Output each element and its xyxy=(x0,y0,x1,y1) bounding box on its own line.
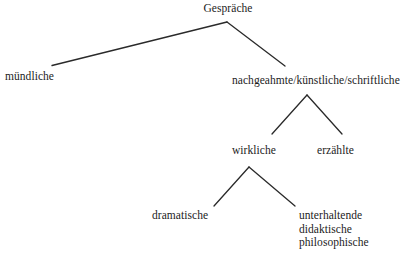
node-wirkliche: wirkliche xyxy=(232,144,276,158)
edge-root-to-written xyxy=(227,22,285,66)
node-dramatische: dramatische xyxy=(152,209,208,223)
node-didaktische: didaktische xyxy=(299,223,369,237)
edge-written-to-real xyxy=(272,95,307,134)
node-erzaehlte: erzählte xyxy=(317,144,354,158)
node-muendliche: mündliche xyxy=(5,70,54,84)
node-unterhaltende: unterhaltende xyxy=(299,209,369,223)
edge-written-to-narrated xyxy=(307,95,342,134)
edge-root-to-oral xyxy=(52,22,227,66)
edge-real-to-dramatic xyxy=(214,167,249,206)
edge-real-to-entertaining xyxy=(249,167,295,206)
tree-diagram: Gespräche mündliche nachgeahmte/künstlic… xyxy=(0,0,410,262)
node-nachgeahmte-kuenstliche-schriftliche: nachgeahmte/künstliche/schriftliche xyxy=(232,74,400,88)
node-philosophische: philosophische xyxy=(299,236,369,250)
node-gespraeche: Gespräche xyxy=(204,2,253,16)
node-group-unterhaltende-didaktische-philosophische: unterhaltende didaktische philosophische xyxy=(299,209,369,250)
